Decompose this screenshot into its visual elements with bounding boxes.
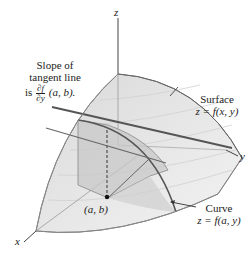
slope-line2: tangent line	[24, 71, 86, 83]
partial-derivative-fraction: ∂f ∂y	[36, 84, 45, 103]
x-axis-label: x	[15, 236, 20, 247]
slope-suffix: (a, b).	[49, 86, 76, 98]
curve-equation: z = f(a, y)	[186, 214, 252, 226]
point-ab	[105, 195, 109, 199]
fraction-denominator: ∂y	[36, 94, 45, 103]
slope-line1: Slope of	[24, 59, 86, 71]
z-axis-label: z	[114, 7, 118, 18]
slope-annotation: Slope of tangent line	[24, 59, 86, 83]
curve-annotation: Curve z = f(a, y)	[186, 202, 252, 226]
x-axis	[24, 231, 36, 242]
curve-title: Curve	[186, 202, 252, 214]
surface-annotation: Surface z = f(x, y)	[184, 93, 250, 117]
surface-equation: z = f(x, y)	[184, 105, 250, 117]
surface-title: Surface	[184, 93, 250, 105]
point-label: (a, b)	[84, 204, 108, 215]
slope-prefix: is	[25, 86, 32, 98]
y-axis-label: y	[240, 151, 245, 162]
slope-formula: is ∂f ∂y (a, b).	[25, 84, 75, 103]
